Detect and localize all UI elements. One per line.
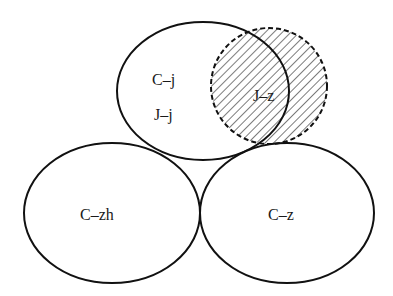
label-jz: J–z: [253, 87, 274, 104]
label-cj: C–j: [152, 71, 175, 89]
label-czh: C–zh: [80, 206, 114, 223]
diagram-canvas: C–j J–j J–z C–zh C–z: [0, 0, 393, 296]
label-cz: C–z: [268, 206, 294, 223]
label-jj: J–j: [154, 106, 173, 124]
